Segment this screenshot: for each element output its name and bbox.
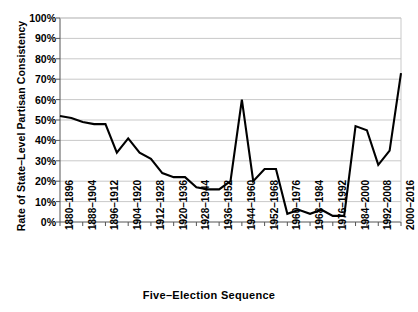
x-axis-tick-label: 1888–1904 [87,180,98,230]
chart-container: Rate of State–Level Partisan Consistency… [0,0,418,312]
x-axis-tick-label: 1960–1976 [291,180,302,230]
x-axis-tick-label: 1944–1960 [246,180,257,230]
x-axis-tick-label: 1936–1952 [223,180,234,230]
x-axis-tick-label: 1880–1896 [64,180,75,230]
x-axis-tick-label: 1920–1936 [178,180,189,230]
x-axis-tick-label: 1896–1912 [109,180,120,230]
x-axis-tick-label: 1968–1984 [314,180,325,230]
x-axis-tick-label: 1984–2000 [360,180,371,230]
x-axis-tick-label: 1904–1920 [132,180,143,230]
x-axis-tick-label: 1992–2008 [382,180,393,230]
x-axis-tick-label: 1912–1928 [155,180,166,230]
x-axis-tick-label: 1928–1944 [200,180,211,230]
x-axis-tick-label: 1952–1968 [269,180,280,230]
x-axis-title: Five–Election Sequence [0,289,418,301]
chart-plot-area [0,0,418,312]
x-axis-tick-label: 1976–1992 [337,180,348,230]
y-axis-ticks [56,18,60,222]
x-axis-tick-label: 2000–2016 [405,180,416,230]
